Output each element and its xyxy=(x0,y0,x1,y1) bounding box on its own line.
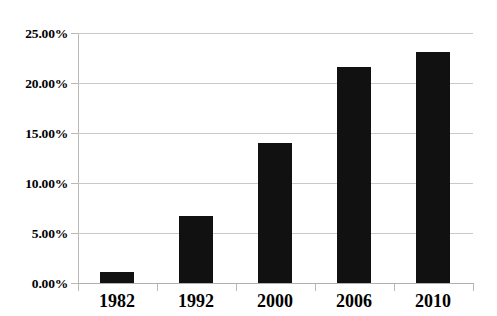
y-axis-tick xyxy=(71,283,78,284)
x-axis-tick xyxy=(157,284,158,291)
x-axis-tick xyxy=(236,284,237,291)
y-axis-tick xyxy=(71,83,78,84)
gridline-20 xyxy=(78,83,473,84)
y-axis-tick-label: 25.00% xyxy=(0,27,68,41)
x-axis-tick xyxy=(315,284,316,291)
y-axis-labels: 25.00% 20.00% 15.00% 10.00% 5.00% 0.00% xyxy=(0,0,68,316)
plot-area xyxy=(78,33,473,283)
y-axis-tick-label: 0.00% xyxy=(0,277,68,291)
bar-2006 xyxy=(337,67,371,283)
y-axis-tick xyxy=(71,233,78,234)
x-axis-label-1992: 1992 xyxy=(151,292,241,311)
gridline-25 xyxy=(78,33,473,34)
y-axis-tick xyxy=(71,33,78,34)
y-axis-tick-label: 5.00% xyxy=(0,227,68,241)
x-axis-tick xyxy=(394,284,395,291)
y-axis-tick-label: 15.00% xyxy=(0,127,68,141)
y-axis-tick xyxy=(71,133,78,134)
x-axis-label-2000: 2000 xyxy=(230,292,320,311)
x-axis-line xyxy=(78,283,474,284)
x-axis-tick xyxy=(473,284,474,291)
bar-1982 xyxy=(100,272,134,283)
x-axis-tick xyxy=(78,284,79,291)
gridline-15 xyxy=(78,133,473,134)
x-axis-label-1982: 1982 xyxy=(72,292,162,311)
bar-1992 xyxy=(179,216,213,283)
x-axis-label-2006: 2006 xyxy=(309,292,399,311)
y-axis-tick-label: 10.00% xyxy=(0,177,68,191)
y-axis-tick xyxy=(71,183,78,184)
y-axis-tick-label: 20.00% xyxy=(0,77,68,91)
bar-2010 xyxy=(416,52,450,283)
bar-2000 xyxy=(258,143,292,283)
x-axis-label-2010: 2010 xyxy=(388,292,478,311)
bar-chart: 25.00% 20.00% 15.00% 10.00% 5.00% 0.00% … xyxy=(0,0,497,316)
